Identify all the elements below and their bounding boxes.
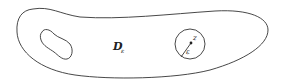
point-label: z — [192, 34, 197, 42]
inner-hole — [40, 30, 72, 60]
outer-boundary — [17, 8, 268, 78]
center-point — [190, 42, 193, 45]
domain-diagram: D ε z ε — [0, 0, 283, 82]
radius-label: ε — [186, 48, 190, 56]
region-subscript: ε — [121, 47, 124, 54]
